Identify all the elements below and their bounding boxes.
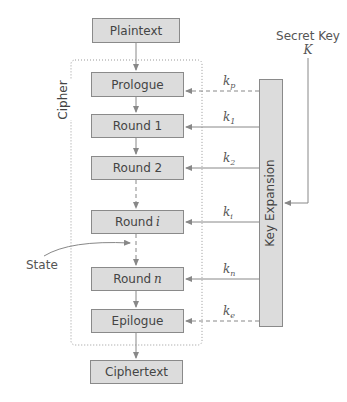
round-n-block: Roundn [91,267,184,291]
subkey-k2-label: k2 [223,151,235,167]
round-n-label: Round [113,272,151,286]
prologue-block: Prologue [91,72,184,97]
round-1-block: Round 1 [91,114,184,138]
secret-key-label: Secret Key [276,29,340,43]
subkey-ke-label: ke [223,304,235,320]
state-label: State [26,258,58,272]
round-n-var: n [154,272,162,286]
subkey-ki-label: ki [223,205,233,221]
cipher-label: Cipher [56,80,72,120]
ciphertext-block: Ciphertext [90,360,183,384]
epilogue-block: Epilogue [91,309,184,333]
key-expansion-label: Key Expansion [263,153,279,253]
connectors [0,0,347,402]
subkey-kn-label: kn [223,262,235,278]
round-i-block: Roundi [91,210,184,234]
subkey-k1-label: k1 [223,110,235,126]
subkey-kp-label: kp [223,74,235,90]
round-i-label: Round [115,215,153,229]
round-i-var: i [156,215,160,229]
plaintext-block: Plaintext [92,18,180,43]
secret-key-symbol: K [302,43,314,57]
round-2-block: Round 2 [91,156,184,180]
